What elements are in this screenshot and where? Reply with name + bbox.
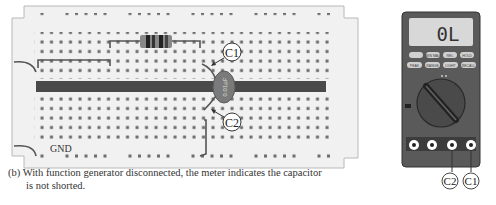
caption-line-1: (b) With function generator disconnected…	[8, 167, 322, 178]
button-minmax[interactable]	[409, 52, 423, 58]
svg-text:C2: C2	[225, 116, 239, 130]
svg-text:C1: C1	[225, 46, 239, 60]
lower-terminal-strip	[34, 96, 334, 143]
rotary-dial[interactable]	[417, 79, 465, 127]
bottom-power-rail	[34, 153, 334, 161]
side-indicator	[405, 104, 411, 108]
jack-volt-ohm[interactable]	[466, 140, 476, 150]
svg-text:MIN MAX: MIN MAX	[426, 54, 442, 58]
capacitor-marking: 0.01µF	[222, 77, 228, 96]
svg-text:RANGE: RANGE	[426, 64, 439, 68]
figure-caption: (b) With function generator disconnected…	[8, 166, 338, 192]
upper-terminal-strip	[34, 32, 334, 79]
jack-ma[interactable]	[427, 140, 437, 150]
capacitor: 0.01µF	[213, 71, 235, 103]
resistor	[140, 35, 172, 48]
svg-text:RECALL: RECALL	[462, 64, 476, 68]
center-channel	[36, 81, 326, 92]
meter-jacks	[406, 137, 476, 151]
meter-c1-label: C1	[463, 173, 479, 189]
meter-c2-label: C2	[442, 173, 458, 189]
meter-reading: 0L	[437, 23, 460, 45]
svg-text:REL: REL	[447, 54, 454, 58]
svg-text:HOLD: HOLD	[462, 54, 472, 58]
svg-text:LIGHT: LIGHT	[445, 64, 456, 68]
caption-line-2: is not shorted.	[8, 179, 338, 192]
jack-a[interactable]	[409, 140, 419, 150]
svg-text:C2: C2	[444, 175, 457, 187]
jack-com[interactable]	[447, 140, 457, 150]
svg-text:C1: C1	[465, 175, 478, 187]
gnd-label: GND	[50, 143, 72, 154]
top-power-rail	[34, 13, 334, 21]
svg-text:PEAK: PEAK	[410, 64, 420, 68]
multimeter: 0L MIN MAX REL HOLD PEAK RANGE LIGHT REC…	[402, 12, 480, 172]
